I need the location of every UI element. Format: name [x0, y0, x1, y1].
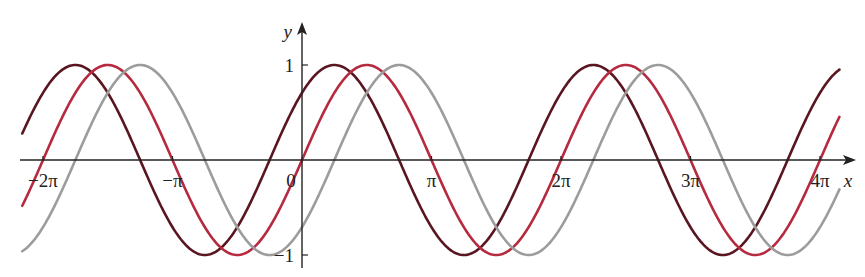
- y-tick-label: 1: [285, 55, 295, 76]
- tick-labels: −2π−π0π2π3π4π1−1xy: [28, 21, 853, 266]
- x-tick-label: 3π: [681, 170, 701, 191]
- x-tick-label: 2π: [551, 170, 571, 191]
- y-axis-label: y: [282, 21, 293, 42]
- sine-phase-shift-chart: −2π−π0π2π3π4π1−1xy: [0, 0, 865, 277]
- y-tick-label: −1: [274, 245, 294, 266]
- x-tick-label: −2π: [28, 170, 58, 191]
- plot-area: −2π−π0π2π3π4π1−1xy: [0, 0, 865, 277]
- x-tick-label: 0: [286, 170, 296, 191]
- x-tick-label: π: [427, 170, 437, 191]
- x-axis-label: x: [843, 170, 853, 191]
- x-tick-label: 4π: [810, 170, 830, 191]
- x-tick-label: −π: [162, 170, 183, 191]
- axes: [20, 22, 856, 268]
